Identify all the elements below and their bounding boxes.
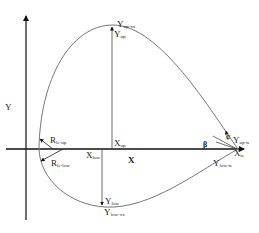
x-up-label: Xup xyxy=(114,138,126,148)
y-up-xx-label: Yup-xx xyxy=(117,19,136,29)
airfoil-lower-curve xyxy=(39,149,238,207)
x-low-label: Xlow xyxy=(86,150,100,160)
r-le-up-label: Rle-up xyxy=(50,135,67,145)
y-up-label: Yup xyxy=(114,29,126,39)
y-axis-label: Y xyxy=(5,102,12,112)
y-low-label: Ylow xyxy=(105,196,119,206)
y-up-te-label: Yup-te xyxy=(233,135,251,145)
r-le-low-label: Rle-low xyxy=(51,158,70,168)
alpha-label: α xyxy=(226,132,231,141)
airfoil-diagram: Y X Yup-xx Yup Xup Xlow Ylow Ylow-xx Rle… xyxy=(0,0,259,233)
y-low-xx-label: Ylow-xx xyxy=(104,207,125,217)
y-low-te-label: Ylow-te xyxy=(213,158,233,168)
x-axis-label: X xyxy=(128,155,135,165)
beta-label: β xyxy=(203,140,207,149)
airfoil-upper-curve xyxy=(39,25,238,149)
